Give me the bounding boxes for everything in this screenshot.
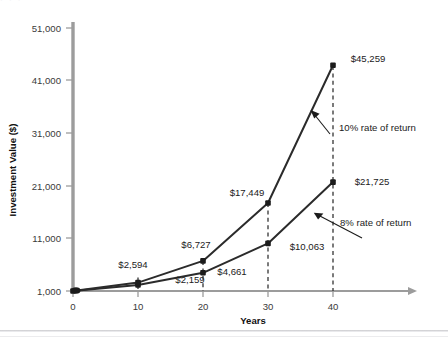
marker-8pct-40yr	[330, 179, 336, 185]
x-tick-label-40: 40	[328, 301, 339, 312]
x-axis	[73, 287, 417, 297]
point-label-10pct-10yr: $2,594	[118, 259, 148, 270]
annotation-8pct-arrowhead	[314, 213, 324, 220]
x-tick-label-10: 10	[133, 301, 144, 312]
x-tick-label-0: 0	[70, 301, 75, 312]
annotation-10pct-text: 10% rate of return	[339, 122, 416, 133]
annotation-8pct-text: 8% rate of return	[340, 217, 411, 228]
marker-origin-1000	[72, 287, 81, 293]
marker-10pct-20yr	[200, 258, 206, 264]
point-label-10pct-20yr: $6,727	[181, 239, 210, 250]
page-divider-rule-secondary	[0, 336, 448, 337]
page-divider-rule	[0, 330, 448, 332]
x-tick-label-30: 30	[263, 301, 274, 312]
annotation-8-percent: 8% rate of return	[314, 213, 412, 238]
x-axis-title: Years	[240, 315, 266, 326]
y-tick-label-11000: 11,000	[32, 233, 61, 244]
annotation-10pct-arrowhead	[311, 110, 320, 118]
investment-growth-line-chart: 51,000 41,000 31,000 21,000 11,000 1,000…	[0, 0, 448, 342]
series-10-percent	[72, 63, 336, 294]
y-axis-title: Investment Value ($)	[7, 124, 18, 217]
y-tick-label-1000: 1,000	[37, 286, 61, 297]
point-label-8pct-40yr: $21,725	[355, 176, 390, 187]
y-tick-label-51000: 51,000	[32, 23, 61, 34]
marker-10pct-40yr	[330, 63, 336, 69]
point-label-8pct-20yr: $4,661	[217, 266, 246, 277]
marker-10pct-10yr	[135, 280, 141, 286]
annotation-10-percent: 10% rate of return	[311, 110, 416, 134]
x-tick-label-20: 20	[198, 301, 209, 312]
y-tick-label-21000: 21,000	[32, 181, 61, 192]
marker-8pct-30yr	[265, 241, 271, 247]
y-tick-label-41000: 41,000	[32, 75, 61, 86]
point-label-10pct-40yr: $45,259	[351, 53, 386, 64]
y-axis	[66, 22, 73, 292]
series-10-percent-line	[73, 65, 333, 291]
chart-figure: · · · 51,000	[0, 0, 448, 342]
point-label-8pct-30yr: $10,063	[290, 241, 325, 252]
point-label-8pct-10yr: $2,159	[175, 274, 204, 285]
point-label-10pct-30yr: $17,449	[230, 187, 265, 198]
x-axis-arrowhead	[408, 287, 417, 295]
annotation-10pct-leader-line	[314, 114, 330, 134]
marker-10pct-30yr	[265, 200, 271, 206]
y-tick-label-31000: 31,000	[32, 128, 61, 139]
